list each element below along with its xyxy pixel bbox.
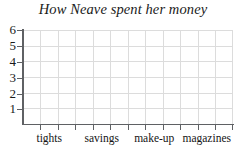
x-tick-mark-9 [180,125,181,130]
x-tick-mark-12 [232,125,233,130]
plot-area [23,30,233,124]
x-category-label-savings: savings [76,131,129,149]
y-tick-label-3: 3 [1,71,16,84]
x-tick-mark-10 [198,125,199,130]
x-category-label-magazines: magazines [181,131,234,149]
x-tick-mark-11 [215,125,216,130]
y-tick-label-5: 5 [1,39,16,52]
y-tick-label-4: 4 [1,55,16,68]
gridlines [23,30,233,124]
chart-title: How Neave spent her money [0,1,246,18]
y-tick-mark-4 [17,62,23,63]
y-tick-label-2: 2 [1,87,16,100]
y-tick-label-1: 1 [1,102,16,115]
x-tick-mark-5 [110,125,111,130]
bar-chart: How Neave spent her money [0,0,246,152]
x-category-label-tights: tights [23,131,76,149]
x-axis-labels: tights savings make-up magazines [23,131,233,149]
y-tick-mark-5 [17,46,23,47]
x-tick-mark-2 [58,125,59,130]
y-tick-label-6: 6 [1,23,16,36]
y-axis-labels: 6 5 4 3 2 1 [0,0,16,152]
x-tick-mark-6 [128,125,129,130]
x-tick-mark-3 [75,125,76,130]
y-tick-mark-2 [17,94,23,95]
y-tick-mark-6 [17,30,23,31]
y-tick-mark-3 [17,78,23,79]
x-category-label-make-up: make-up [128,131,181,149]
y-tick-mark-1 [17,109,23,110]
x-tick-mark-8 [163,125,164,130]
x-tick-mark-7 [145,125,146,130]
x-tick-mark-4 [93,125,94,130]
x-tick-mark-1 [40,125,41,130]
